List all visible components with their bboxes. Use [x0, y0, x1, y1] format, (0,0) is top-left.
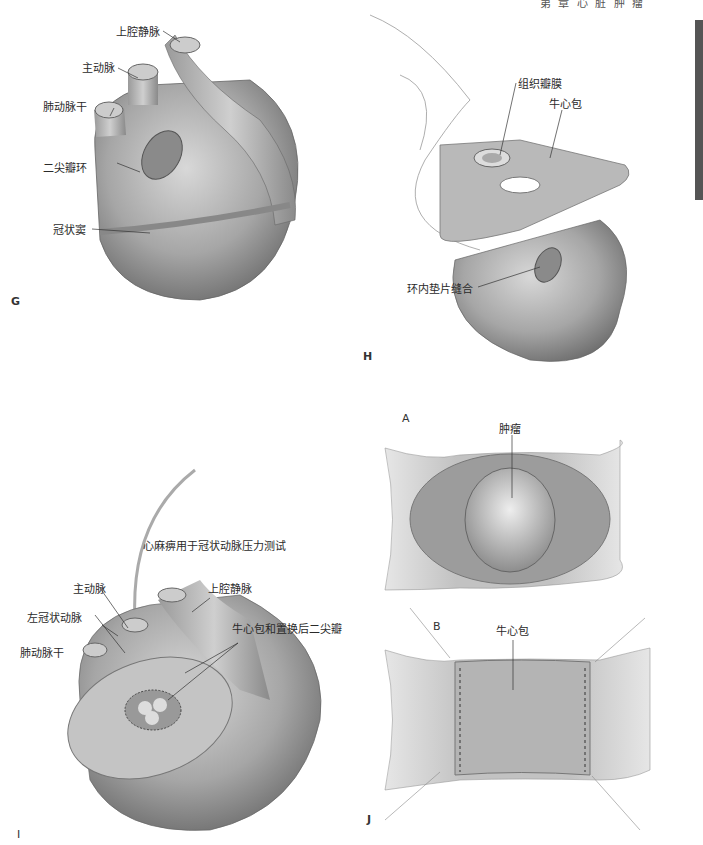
label-g-pulmonary-trunk: 肺动脉干: [43, 98, 87, 114]
panel-j-b-atrium: [385, 608, 650, 830]
label-g-aorta: 主动脉: [82, 59, 115, 75]
label-i-aorta: 主动脉: [73, 580, 106, 596]
label-h-pledget-suture: 环内垫片缝合: [407, 280, 473, 296]
panel-letter-g: G: [11, 295, 20, 308]
label-g-mitral-annulus: 二尖瓣环: [43, 159, 87, 175]
label-h-tissue-valve: 组织瓣膜: [518, 75, 562, 91]
panel-h-heart: [370, 15, 629, 361]
panel-letter-j-a: A: [402, 412, 410, 425]
panel-g-heart: [94, 35, 298, 300]
label-h-bovine-pericardium: 牛心包: [549, 95, 582, 111]
panel-letter-j: J: [367, 813, 371, 826]
panel-i-heart: [51, 470, 321, 830]
label-i-patch-valve: 牛心包和置换后二尖瓣: [232, 620, 342, 636]
label-i-left-coronary: 左冠状动脉: [27, 609, 82, 625]
label-i-pulmonary-trunk: 肺动脉干: [20, 644, 64, 660]
label-i-svc: 上腔静脉: [208, 580, 252, 596]
label-j-tumor: 肿瘤: [499, 420, 521, 436]
panel-letter-j-b: B: [433, 620, 441, 633]
label-g-svc: 上腔静脉: [116, 23, 160, 39]
panel-letter-h: H: [363, 350, 372, 363]
label-g-coronary-sinus: 冠状窦: [53, 221, 86, 237]
panel-j-a-atrium: [385, 440, 623, 590]
label-j-bovine-pericardium: 牛心包: [496, 622, 529, 638]
illustration-canvas: [0, 0, 703, 845]
label-i-cardioplegia: 心麻痹用于冠状动脉压力测试: [143, 537, 286, 553]
panel-letter-i: I: [17, 828, 20, 841]
